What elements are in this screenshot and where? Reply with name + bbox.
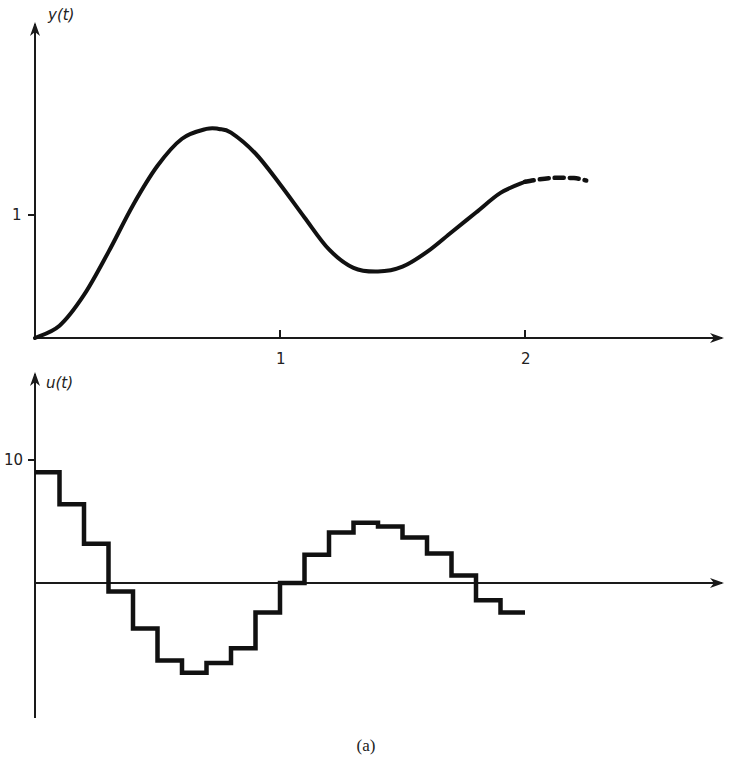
top-y-ticks: 1	[12, 206, 35, 224]
top-y-label: y(t)	[47, 6, 74, 24]
y-response-dashed	[525, 178, 586, 182]
bottom-y-ticks: 10	[4, 451, 35, 469]
figure: y(t) 12 1 u(t) 10	[0, 0, 732, 774]
top-x-ticks: 12	[276, 330, 531, 368]
figure-caption: (a)	[0, 736, 732, 756]
bottom-y-label: u(t)	[46, 374, 73, 392]
u-control-staircase	[35, 472, 525, 672]
y-tick-label: 1	[12, 206, 22, 224]
bottom-panel: u(t) 10	[4, 374, 722, 718]
x-tick-label: 1	[276, 350, 286, 368]
u-tick-label: 10	[4, 451, 23, 469]
top-panel: y(t) 12 1	[12, 6, 722, 368]
x-tick-label: 2	[521, 350, 531, 368]
y-response-curve	[35, 128, 525, 338]
